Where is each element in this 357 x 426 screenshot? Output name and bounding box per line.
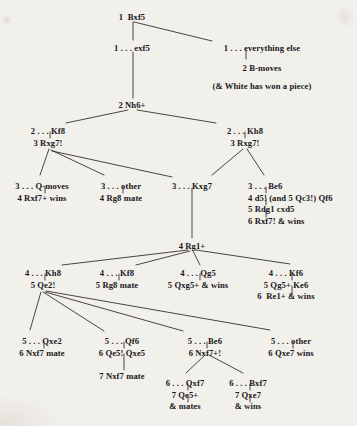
tree-node-n2: 1 . . . exf5 (114, 43, 150, 55)
tree-node-line: 5 . . . Be6 (188, 336, 222, 348)
tree-node-n5: (& White has won a piece) (212, 81, 311, 93)
tree-node-line: 3 . . . Be6 (248, 181, 333, 193)
tree-node-line: 3 . . . Q-moves (15, 181, 68, 193)
tree-edge (212, 149, 243, 175)
tree-node-line: 2 B-moves (243, 63, 282, 75)
tree-node-line (99, 359, 145, 371)
tree-node-n11: 3 . . . Kxg7 (172, 181, 212, 193)
tree-node-n1: 1 Bxf5 (119, 12, 145, 24)
tree-node-line: 6 Nxf7+! (188, 348, 222, 360)
tree-edge (51, 150, 104, 175)
tree-node-n18: 5 . . . Qxe26 Nxf7 mate (19, 336, 65, 359)
tree-node-line: 3 Rxg7! (31, 138, 65, 150)
tree-node-line: 5 . . . Qf6 (99, 336, 145, 348)
tree-node-line: 6 Nxf7 mate (19, 348, 65, 360)
tree-node-line: & wins (229, 401, 267, 413)
tree-node-line: 1 . . . exf5 (114, 43, 150, 55)
tree-node-line: 4 . . . Kh8 (25, 268, 61, 280)
tree-node-line: & mates (166, 401, 205, 413)
tree-node-line: 1 . . . everything else (224, 43, 300, 55)
tree-node-n22: 6 . . . Qxf77 Qe5+& mates (166, 378, 205, 413)
tree-node-line: 5 Qg5+ Ke6 (257, 280, 314, 292)
tree-edge (40, 149, 49, 175)
tree-node-line: 6 Re1+ & wins (257, 291, 314, 303)
tree-edge (134, 22, 212, 41)
tree-node-line: 5 Qe2! (25, 280, 61, 292)
tree-node-n14: 4 . . . Kh85 Qe2! (25, 268, 61, 291)
tree-edge (46, 291, 270, 330)
tree-edge (193, 251, 200, 265)
tree-node-n10: 3 . . . other4 Rg8 mate (100, 181, 143, 204)
tree-node-line: 7 Qxe7 (229, 390, 267, 402)
tree-node-line: 4 . . . Qg5 (168, 268, 229, 280)
tree-edge (43, 292, 104, 331)
tree-node-line: 2 . . . Kf8 (31, 126, 65, 138)
tree-node-n16: 4 . . . Qg55 Qxg5+ & wins (168, 268, 229, 291)
tree-edge (30, 292, 41, 330)
tree-node-line: 6 . . . Bxf7 (229, 378, 267, 390)
tree-node-line: 5 Qxg5+ & wins (168, 280, 229, 292)
tree-node-line: 2 . . . Kh8 (227, 126, 263, 138)
tree-node-n19: 5 . . . Qf66 Qe5! Qxe5 7 Nxf7 mate (99, 336, 145, 382)
tree-node-line: 3 Rxg7! (227, 138, 263, 150)
tree-node-line: 6 Qe5! Qxe5 (99, 348, 145, 360)
tree-node-line: 2 Nh6+ (118, 100, 145, 112)
tree-node-n20: 5 . . . Be66 Nxf7+! (188, 336, 222, 359)
tree-node-n8: 2 . . . Kh83 Rxg7! (227, 126, 263, 149)
tree-node-line: 3 . . . other (100, 181, 143, 193)
tree-edge (196, 250, 290, 264)
tree-node-line: 6 . . . Qxf7 (166, 378, 205, 390)
tree-edge (137, 110, 216, 123)
tree-edge (45, 292, 183, 331)
tree-node-n21: 5 . . . other6 Qxe7 wins (268, 336, 314, 359)
tree-node-line: 7 Nxf7 mate (99, 371, 145, 383)
tree-node-line: 5 Rg8 mate (96, 280, 139, 292)
tree-edge (62, 250, 188, 265)
tree-node-n15: 4 . . . Kf85 Rg8 mate (96, 268, 139, 291)
paper-stain-top-left (2, 14, 12, 26)
tree-node-line: 4 Rg1+ (179, 241, 206, 253)
paper-stain-top-right (336, 6, 354, 28)
tree-node-line: 4 . . . Kf8 (96, 268, 139, 280)
tree-node-line: 5 Rdg1 cxd5 (248, 204, 333, 216)
paper-stain-bottom-left (0, 396, 60, 426)
tree-edge (247, 149, 264, 175)
tree-node-n3: 1 . . . everything else (224, 43, 300, 55)
tree-node-line: 4 d5! (and 5 Qc3!) Qf6 (248, 193, 333, 205)
tree-node-line: 4 Rg8 mate (100, 193, 143, 205)
chess-analysis-tree: 1 Bxf51 . . . exf51 . . . everything els… (0, 0, 357, 426)
tree-node-n12: 3 . . . Be64 d5! (and 5 Qc3!) Qf65 Rdg1 … (248, 181, 333, 227)
tree-node-line: 5 . . . other (268, 336, 314, 348)
tree-node-n13: 4 Rg1+ (179, 241, 206, 253)
tree-node-line: 4 Rxf7+ wins (15, 193, 68, 205)
tree-node-line: 4 . . . Kf6 (257, 268, 314, 280)
tree-edge (66, 110, 128, 123)
tree-node-n6: 2 Nh6+ (118, 100, 145, 112)
tree-node-n17: 4 . . . Kf65 Qg5+ Ke66 Re1+ & wins (257, 268, 314, 303)
tree-node-line: 3 . . . Kxg7 (172, 181, 212, 193)
tree-node-n7: 2 . . . Kf83 Rxg7! (31, 126, 65, 149)
tree-node-line: (& White has won a piece) (212, 81, 311, 93)
tree-edge (136, 251, 190, 265)
tree-node-line: 6 Qxe7 wins (268, 348, 314, 360)
tree-edge (52, 151, 172, 177)
tree-node-line: 5 . . . Qxe2 (19, 336, 65, 348)
tree-node-n9: 3 . . . Q-moves4 Rxf7+ wins (15, 181, 68, 204)
tree-node-n4: 2 B-moves (243, 63, 282, 75)
tree-node-line: 1 Bxf5 (119, 12, 145, 24)
tree-node-line: 7 Qe5+ (166, 390, 205, 402)
tree-node-line: 6 Rxf7! & wins (248, 216, 333, 228)
tree-node-n23: 6 . . . Bxf77 Qxe7& wins (229, 378, 267, 413)
